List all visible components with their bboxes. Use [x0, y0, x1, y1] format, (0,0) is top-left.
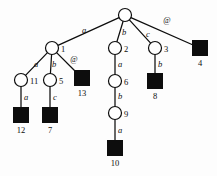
tree-node-internal[interactable] [119, 9, 132, 22]
node-label: 3 [164, 44, 168, 54]
node-label: 8 [153, 91, 157, 101]
node-label: 12 [17, 125, 26, 135]
node-label: 9 [124, 109, 128, 119]
tree-diagram-canvas: abc@ab@acabba 12341151368127910 [0, 0, 217, 176]
node-label: 6 [124, 77, 128, 87]
node-label: 7 [48, 125, 52, 135]
node-label: 5 [59, 76, 63, 86]
node-label: 1 [61, 44, 65, 54]
tree-node-internal[interactable] [46, 42, 59, 55]
tree-diagram-svg: abc@ab@acabba 12341151368127910 [0, 0, 217, 176]
tree-node-leaf[interactable] [108, 141, 123, 156]
tree-node-leaf[interactable] [43, 108, 58, 123]
nodes-layer [14, 9, 208, 156]
edge-label: @ [70, 55, 77, 64]
tree-node-internal[interactable] [149, 42, 162, 55]
edge-label: b [52, 59, 56, 69]
edge-label: b [158, 59, 162, 69]
tree-node-leaf[interactable] [148, 74, 163, 89]
edge-label: a [118, 125, 122, 135]
edge-label: c [146, 29, 150, 39]
edge-label: a [118, 59, 122, 69]
edge-label: @ [163, 16, 170, 25]
tree-edge [58, 18, 119, 46]
node-label: 13 [78, 88, 87, 98]
tree-node-internal[interactable] [15, 74, 28, 87]
edge-label: c [53, 92, 57, 102]
node-label: 2 [124, 44, 128, 54]
tree-node-internal[interactable] [109, 107, 122, 120]
edge-label: a [82, 25, 86, 35]
tree-node-internal[interactable] [109, 42, 122, 55]
tree-node-internal[interactable] [109, 75, 122, 88]
node-label: 4 [198, 58, 203, 68]
tree-node-internal[interactable] [44, 74, 57, 87]
tree-node-leaf[interactable] [14, 108, 29, 123]
node-label: 11 [30, 76, 38, 86]
tree-node-leaf[interactable] [75, 71, 90, 86]
edge-label: a [24, 92, 28, 102]
edge-label: a [34, 59, 38, 69]
tree-node-leaf[interactable] [193, 41, 208, 56]
edge-label: b [122, 27, 126, 37]
edge-label: b [118, 91, 122, 101]
node-label: 10 [111, 158, 120, 168]
